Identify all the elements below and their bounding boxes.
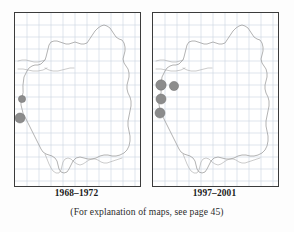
record-dot (169, 81, 178, 90)
record-dot (156, 80, 166, 90)
map-canvas-right (153, 13, 278, 186)
record-dot (156, 94, 166, 104)
maps-row (0, 0, 294, 190)
record-dot (18, 95, 25, 102)
period-label-left: 1968–1972 (14, 188, 139, 198)
record-dots-left (15, 13, 140, 186)
map-panel-1968-1972[interactable] (14, 12, 141, 187)
map-canvas-left (15, 13, 140, 186)
period-label-right: 1997–2001 (152, 188, 277, 198)
record-dots-right (153, 13, 278, 186)
figure-caption: (For explanation of maps, see page 45) (0, 206, 294, 217)
period-labels-row: 1968–1972 1997–2001 (0, 188, 294, 204)
map-panel-1997-2001[interactable] (152, 12, 279, 187)
distribution-map-figure: 1968–1972 1997–2001 (For explanation of … (0, 0, 294, 232)
record-dot (155, 108, 165, 118)
record-dot (15, 113, 25, 123)
